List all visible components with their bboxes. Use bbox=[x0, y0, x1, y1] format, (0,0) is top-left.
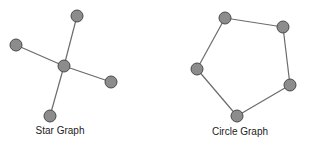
graph-edge bbox=[16, 45, 64, 66]
circle-graph bbox=[191, 12, 296, 122]
star-graph bbox=[10, 10, 117, 122]
graph-node bbox=[71, 10, 83, 22]
graph-edge bbox=[197, 69, 237, 116]
graph-node bbox=[44, 110, 56, 122]
star-graph-label: Star Graph bbox=[36, 125, 85, 136]
diagram-canvas: Star Graph Circle Graph bbox=[0, 0, 309, 142]
graph-edge bbox=[237, 85, 290, 116]
graph-edge bbox=[197, 18, 225, 69]
graph-node bbox=[58, 60, 70, 72]
graphs-svg bbox=[0, 0, 309, 142]
graph-edge bbox=[64, 66, 111, 82]
graph-node bbox=[191, 63, 203, 75]
graph-edge bbox=[283, 27, 290, 85]
graph-node bbox=[10, 39, 22, 51]
graph-node bbox=[277, 21, 289, 33]
graph-edge bbox=[225, 18, 283, 27]
graph-node bbox=[105, 76, 117, 88]
graph-node bbox=[219, 12, 231, 24]
graph-edge bbox=[64, 16, 77, 66]
graph-edge bbox=[50, 66, 64, 116]
circle-graph-label: Circle Graph bbox=[212, 126, 268, 137]
graph-node bbox=[284, 79, 296, 91]
graph-node bbox=[231, 110, 243, 122]
